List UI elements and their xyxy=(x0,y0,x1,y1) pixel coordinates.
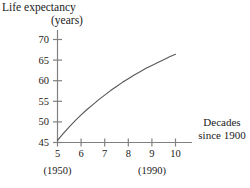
x-axis-title-line-1: Decades xyxy=(194,116,250,129)
x-axis-title-line-2: since 1900 xyxy=(194,129,250,142)
plot-area xyxy=(0,0,250,188)
y-tick-label-50: 50 xyxy=(27,117,49,128)
x-tick-label-10: 10 xyxy=(165,149,187,160)
y-tick-label-60: 60 xyxy=(27,76,49,87)
y-tick-label-70: 70 xyxy=(27,35,49,46)
y-tick-label-65: 65 xyxy=(27,56,49,67)
x-tick-label-9: 9 xyxy=(141,149,163,160)
x-axis-title: Decades since 1900 xyxy=(194,116,250,141)
x-tick-label-5: 5 xyxy=(47,149,69,160)
x-tick-label-7: 7 xyxy=(94,149,116,160)
y-tick-label-45: 45 xyxy=(27,138,49,149)
annotation-1950: (1950) xyxy=(35,166,81,177)
x-tick-label-8: 8 xyxy=(117,149,139,160)
x-tick-label-6: 6 xyxy=(70,149,92,160)
life-expectancy-curve xyxy=(58,54,176,140)
annotation-1990: (1990) xyxy=(129,166,175,177)
chart-figure: Life expectancy (years) 70 6 xyxy=(0,0,250,188)
y-tick-label-55: 55 xyxy=(27,97,49,108)
